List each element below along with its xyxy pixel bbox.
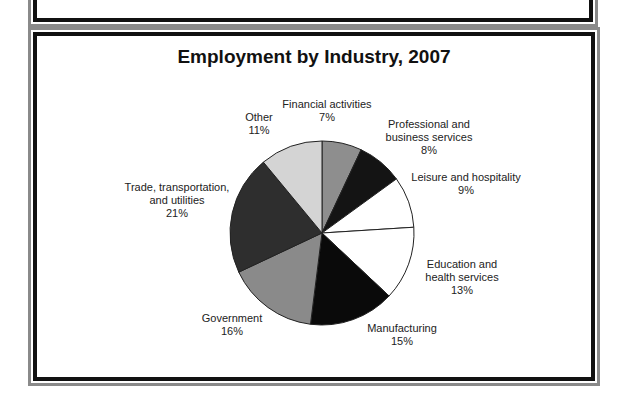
label-other: Other11% [245,111,273,137]
label-government: Government16% [202,312,263,338]
label-trade: Trade, transportation,and utilities21% [125,181,230,220]
label-professional: Professional andbusiness services8% [386,118,473,157]
pie-chart [0,0,628,406]
label-financial: Financial activities7% [282,98,371,124]
label-leisure: Leisure and hospitality9% [411,171,520,197]
label-education: Education andhealth services13% [425,258,498,297]
label-manufacturing: Manufacturing15% [367,322,437,348]
